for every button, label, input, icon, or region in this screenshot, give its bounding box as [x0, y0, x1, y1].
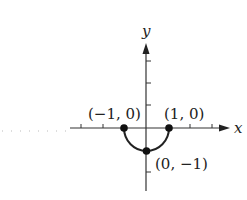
y-ticks [146, 61, 151, 172]
y-axis-label: y [141, 22, 151, 40]
label-point-neg1-0: (−1, 0) [88, 105, 141, 123]
label-point-0-neg1: (0, −1) [155, 155, 208, 173]
graph: (−1, 0) (1, 0) (0, −1) x y [0, 0, 247, 200]
point-neg1-0 [120, 124, 128, 132]
x-axis-arrow-icon [219, 125, 230, 132]
label-point-1-0: (1, 0) [164, 105, 204, 123]
y-axis-arrow-icon [143, 43, 150, 54]
x-axis-label: x [234, 119, 243, 137]
point-0-neg1 [143, 147, 151, 155]
point-1-0 [165, 124, 173, 132]
